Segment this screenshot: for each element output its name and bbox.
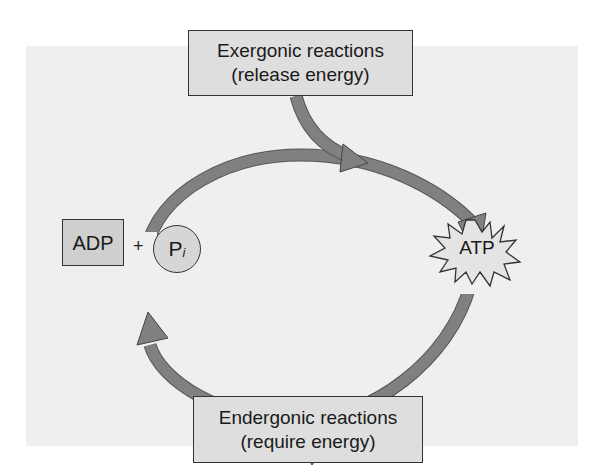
adp-label: ADP [72,231,113,255]
exergonic-line1: Exergonic reactions [217,39,384,63]
pi-subscript: i [183,245,186,260]
endergonic-line1: Endergonic reactions [219,406,398,430]
adp-box: ADP [62,219,124,266]
atp-label: ATP [448,237,506,259]
arrowhead-to-adp [137,312,168,345]
endergonic-reactions-box: Endergonic reactions (require energy) [193,396,423,463]
plus-sign: + [133,236,144,257]
exergonic-reactions-box: Exergonic reactions (release energy) [188,30,413,96]
exergonic-line2: (release energy) [231,63,369,87]
endergonic-line2: (require energy) [240,430,375,454]
phosphate-circle: Pi [153,225,201,273]
pi-label: P [169,237,183,261]
